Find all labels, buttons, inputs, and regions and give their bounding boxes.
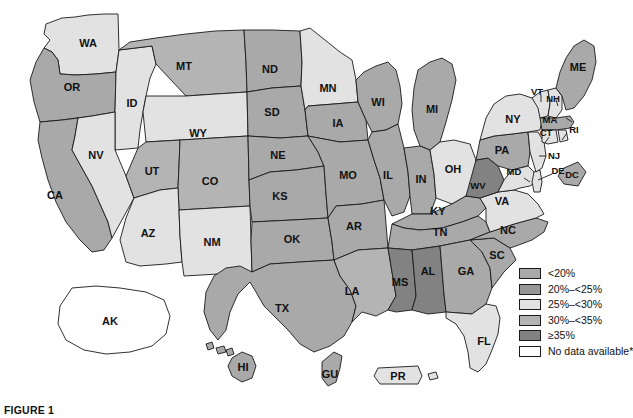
- legend-swatch-icon-4: [519, 330, 541, 341]
- state-label-UT: UT: [145, 165, 160, 177]
- legend-swatch-icon-2: [519, 299, 541, 310]
- state-label-RI: RI: [569, 124, 579, 135]
- figure-caption: FIGURE 1: [4, 404, 54, 418]
- legend-item-2[interactable]: 25%–<30%: [519, 297, 625, 312]
- state-label-LA: LA: [345, 285, 360, 297]
- legend-swatch-icon-1: [519, 284, 541, 295]
- state-label-MD: MD: [507, 166, 522, 177]
- state-label-OR: OR: [64, 81, 81, 93]
- state-label-FL: FL: [477, 335, 491, 347]
- state-label-NV: NV: [88, 149, 104, 161]
- state-label-OK: OK: [284, 233, 301, 245]
- state-label-TN: TN: [433, 226, 448, 238]
- state-label-NM: NM: [203, 236, 220, 248]
- legend-label-0: <20%: [548, 268, 575, 279]
- legend-label-5: No data available*: [548, 346, 633, 357]
- state-label-IL: IL: [383, 169, 393, 181]
- legend-item-4[interactable]: ≥35%: [519, 328, 625, 343]
- state-label-ID: ID: [127, 97, 138, 109]
- state-label-CO: CO: [202, 175, 219, 187]
- island-HI-2: [216, 346, 226, 354]
- legend-label-1: 20%–<25%: [548, 284, 602, 295]
- legend-swatch-icon-5: [519, 346, 541, 357]
- legend-item-5[interactable]: No data available*: [519, 344, 625, 359]
- state-label-ME: ME: [570, 61, 587, 73]
- legend-swatch-icon-0: [519, 268, 541, 279]
- state-label-NJ: NJ: [548, 150, 560, 161]
- state-label-PA: PA: [495, 144, 510, 156]
- state-label-AL: AL: [421, 265, 436, 277]
- island-PR-1: [428, 372, 438, 380]
- state-FL[interactable]: [446, 304, 500, 372]
- state-label-NY: NY: [505, 113, 521, 125]
- state-label-AR: AR: [346, 220, 362, 232]
- state-label-AZ: AZ: [141, 227, 156, 239]
- legend-item-0[interactable]: <20%: [519, 266, 625, 281]
- island-HI-1: [206, 342, 214, 350]
- state-CO[interactable]: [178, 136, 250, 210]
- state-label-WY: WY: [189, 127, 207, 139]
- state-label-HI: HI: [238, 361, 249, 373]
- state-label-CT: CT: [540, 127, 553, 138]
- state-label-IA: IA: [333, 117, 344, 129]
- legend-item-1[interactable]: 20%–<25%: [519, 282, 625, 297]
- legend-label-3: 30%–<35%: [548, 315, 602, 326]
- state-label-MN: MN: [319, 82, 336, 94]
- map-legend: <20% 20%–<25% 25%–<30% 30%–<35% ≥35% No …: [519, 266, 625, 356]
- legend-label-2: 25%–<30%: [548, 299, 602, 310]
- state-label-WV: WV: [470, 180, 486, 191]
- state-label-NE: NE: [270, 149, 285, 161]
- state-label-GU: GU: [322, 368, 339, 380]
- state-RI[interactable]: [558, 130, 568, 142]
- state-label-GA: GA: [458, 265, 475, 277]
- state-label-SD: SD: [264, 106, 279, 118]
- state-label-WA: WA: [79, 37, 97, 49]
- island-HI-3: [226, 348, 234, 356]
- state-label-OH: OH: [445, 163, 462, 175]
- state-label-CA: CA: [47, 189, 63, 201]
- state-DE[interactable]: [532, 170, 542, 192]
- state-label-KY: KY: [430, 205, 446, 217]
- state-label-MI: MI: [426, 103, 438, 115]
- state-label-NC: NC: [500, 224, 516, 236]
- state-label-TX: TX: [275, 302, 290, 314]
- legend-swatch-icon-3: [519, 315, 541, 326]
- legend-item-3[interactable]: 30%–<35%: [519, 313, 625, 328]
- state-label-MT: MT: [176, 60, 192, 72]
- state-label-DC: DC: [565, 169, 579, 180]
- state-label-MS: MS: [392, 276, 409, 288]
- state-label-DE: DE: [551, 165, 564, 176]
- state-label-WI: WI: [371, 96, 384, 108]
- state-label-VA: VA: [495, 195, 510, 207]
- state-label-SC: SC: [489, 249, 504, 261]
- state-ND[interactable]: [244, 30, 302, 92]
- state-label-ND: ND: [262, 63, 278, 75]
- state-label-VT: VT: [531, 86, 543, 97]
- state-label-IN: IN: [416, 173, 427, 185]
- legend-label-4: ≥35%: [548, 330, 575, 341]
- state-label-MA: MA: [543, 114, 558, 125]
- state-label-KS: KS: [272, 190, 287, 202]
- state-label-AK: AK: [102, 315, 118, 327]
- state-label-MO: MO: [339, 169, 357, 181]
- state-label-NH: NH: [546, 93, 560, 104]
- state-label-PR: PR: [390, 370, 405, 382]
- state-MN[interactable]: [300, 28, 358, 110]
